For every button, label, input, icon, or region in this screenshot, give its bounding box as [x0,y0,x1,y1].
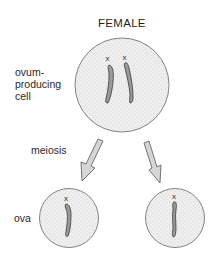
chromosome-label-1: x [106,54,110,63]
ovum-right-chromosome-label: x [172,192,176,201]
ovum-producing-cell: x x [75,38,169,132]
ovum-left: x [40,189,99,248]
meiosis-diagram: x x x x [0,0,216,267]
ovum-right-x-chromosome: x [172,192,176,237]
ovum-right: x [146,189,205,248]
ovum-left-chromosome-label: x [64,194,68,203]
meiosis-arrow-left [81,139,103,181]
chromosome-label-2: x [123,53,127,62]
meiosis-arrow-right [144,141,161,183]
